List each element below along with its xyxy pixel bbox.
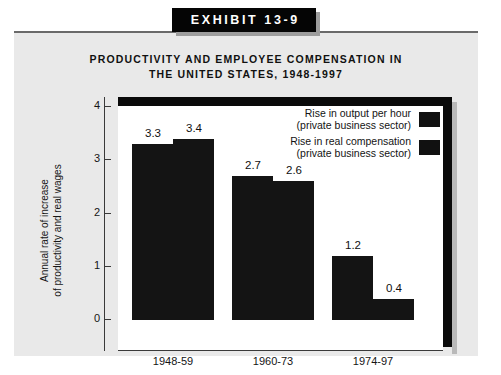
- bar-1974-97-output: [332, 256, 373, 320]
- legend-item-compensation-text: Rise in real compensation (private busin…: [290, 135, 419, 159]
- bar-1974-97-compensation: [373, 299, 414, 320]
- legend-item-output: Rise in output per hour (private busines…: [250, 107, 440, 131]
- chart-title-line-2: THE UNITED STATES, 1948-1997: [14, 67, 478, 82]
- y-tick-label-0: 0: [82, 312, 100, 324]
- y-tick-label-4: 4: [82, 99, 100, 111]
- plot-right-border: [443, 97, 452, 347]
- legend-item-compensation-line-2: (private business sector): [290, 147, 411, 159]
- bar-label-1948-59-compensation: 3.4: [179, 122, 209, 134]
- y-axis-title-line-1: Annual rate of increase: [39, 151, 52, 311]
- plot-top-border: [118, 97, 452, 106]
- x-category-label-3: 1974-97: [333, 355, 413, 367]
- y-tick-label-3: 3: [82, 152, 100, 164]
- x-category-label-1: 1948-59: [133, 355, 213, 367]
- y-tick-label-2: 2: [82, 206, 100, 218]
- x-category-label-2: 1960-73: [233, 355, 313, 367]
- bar-label-1974-97-compensation: 0.4: [379, 282, 409, 294]
- legend-item-output-text: Rise in output per hour (private busines…: [297, 107, 419, 131]
- legend-item-compensation-line-1: Rise in real compensation: [290, 135, 411, 147]
- y-axis-title-line-2: of productivity and real wages: [51, 151, 64, 311]
- y-tick-0: [104, 319, 111, 320]
- exhibit-card: PRODUCTIVITY AND EMPLOYEE COMPENSATION I…: [14, 31, 478, 356]
- bar-label-1960-73-compensation: 2.6: [279, 164, 309, 176]
- chart-title-line-1: PRODUCTIVITY AND EMPLOYEE COMPENSATION I…: [14, 52, 478, 67]
- y-tick-2: [104, 213, 111, 214]
- y-tick-3: [104, 159, 111, 160]
- y-tick-label-1: 1: [82, 259, 100, 271]
- bar-label-1948-59-output: 3.3: [138, 127, 168, 139]
- exhibit-banner: EXHIBIT 13-9: [172, 8, 316, 32]
- legend-swatch-output: [419, 112, 440, 127]
- bar-label-1974-97-output: 1.2: [338, 239, 368, 251]
- y-tick-1: [104, 266, 111, 267]
- legend-item-output-line-2: (private business sector): [297, 119, 411, 131]
- legend-item-output-line-1: Rise in output per hour: [297, 107, 411, 119]
- page-title: PRODUCTIVITY AND EMPLOYEE COMPENSATION I…: [14, 52, 478, 82]
- y-tick-4: [104, 106, 111, 107]
- bar-1948-59-output: [132, 144, 173, 320]
- bar-1960-73-output: [232, 176, 273, 320]
- legend-swatch-compensation: [419, 140, 440, 155]
- bar-1948-59-compensation: [173, 139, 214, 320]
- y-axis-line: [104, 97, 105, 351]
- plot-right-shadow: [452, 102, 457, 354]
- y-axis-title: Annual rate of increase of productivity …: [39, 151, 64, 311]
- chart-legend: Rise in output per hour (private busines…: [250, 107, 440, 163]
- bar-1960-73-compensation: [273, 181, 314, 320]
- legend-item-compensation: Rise in real compensation (private busin…: [250, 135, 440, 159]
